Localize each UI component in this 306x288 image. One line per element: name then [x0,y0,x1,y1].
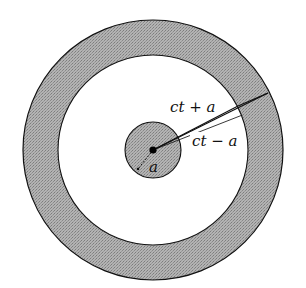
inner-radius-label: ct − a [192,132,237,150]
center-point [149,146,156,153]
diagram-canvas: ct + a ct − a a [0,0,306,288]
source-radius-endpoint [137,168,140,171]
outer-radius-label: ct + a [170,98,215,116]
source-radius-label: a [149,158,158,176]
